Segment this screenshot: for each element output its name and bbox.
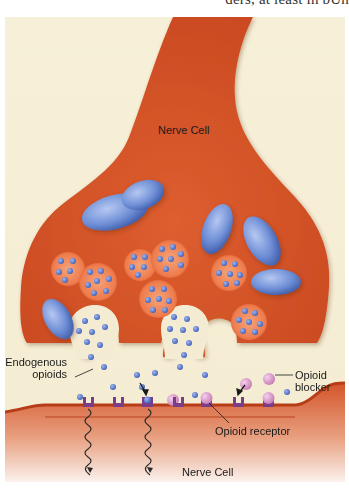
label-opioid-blocker-line2: blocker <box>295 381 330 393</box>
label-top-nerve-cell: Nerve Cell <box>158 124 209 136</box>
synapse-diagram: Nerve Cell Endogenous opioids Opioid blo… <box>5 17 345 482</box>
label-opioid-blocker-line1: Opioid <box>295 369 327 381</box>
label-opioid-receptor: Opioid receptor <box>215 425 290 437</box>
page-fragment-text: ders, at least in bUh <box>225 0 349 8</box>
label-endogenous-line2: opioids <box>5 368 67 380</box>
label-endogenous-line1: Endogenous <box>5 356 67 368</box>
label-bottom-nerve-cell: Nerve Cell <box>182 466 233 478</box>
